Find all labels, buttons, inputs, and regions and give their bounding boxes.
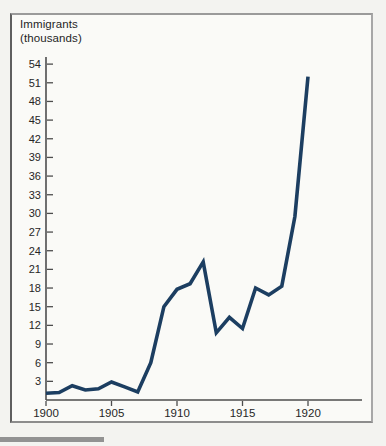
y-tick-label: 27 bbox=[29, 226, 41, 238]
x-tick-label: 1905 bbox=[99, 407, 125, 419]
y-tick-label: 18 bbox=[29, 282, 41, 294]
line-chart: 3691215182124273033363942454851541900190… bbox=[0, 0, 386, 446]
x-tick-label: 1920 bbox=[295, 407, 321, 419]
y-tick-label: 33 bbox=[29, 189, 41, 201]
axes-layer: 3691215182124273033363942454851541900190… bbox=[29, 57, 362, 419]
x-tick-label: 1910 bbox=[164, 407, 190, 419]
y-tick-label: 30 bbox=[29, 207, 41, 219]
y-tick-label: 51 bbox=[29, 77, 41, 89]
y-tick-label: 48 bbox=[29, 95, 41, 107]
x-tick-label: 1900 bbox=[33, 407, 59, 419]
y-tick-label: 6 bbox=[35, 357, 41, 369]
immigration-data-line bbox=[46, 77, 308, 394]
cropped-caption-bar bbox=[0, 437, 104, 442]
y-tick-label: 54 bbox=[29, 58, 41, 70]
y-tick-label: 36 bbox=[29, 170, 41, 182]
y-tick-label: 45 bbox=[29, 114, 41, 126]
y-tick-label: 21 bbox=[29, 263, 41, 275]
y-tick-label: 42 bbox=[29, 133, 41, 145]
x-tick-label: 1915 bbox=[230, 407, 256, 419]
y-tick-label: 24 bbox=[29, 245, 41, 257]
y-tick-label: 15 bbox=[29, 301, 41, 313]
y-tick-label: 3 bbox=[35, 375, 41, 387]
series-layer bbox=[46, 77, 308, 394]
y-tick-label: 39 bbox=[29, 151, 41, 163]
y-tick-label: 9 bbox=[35, 338, 41, 350]
y-tick-label: 12 bbox=[29, 319, 41, 331]
